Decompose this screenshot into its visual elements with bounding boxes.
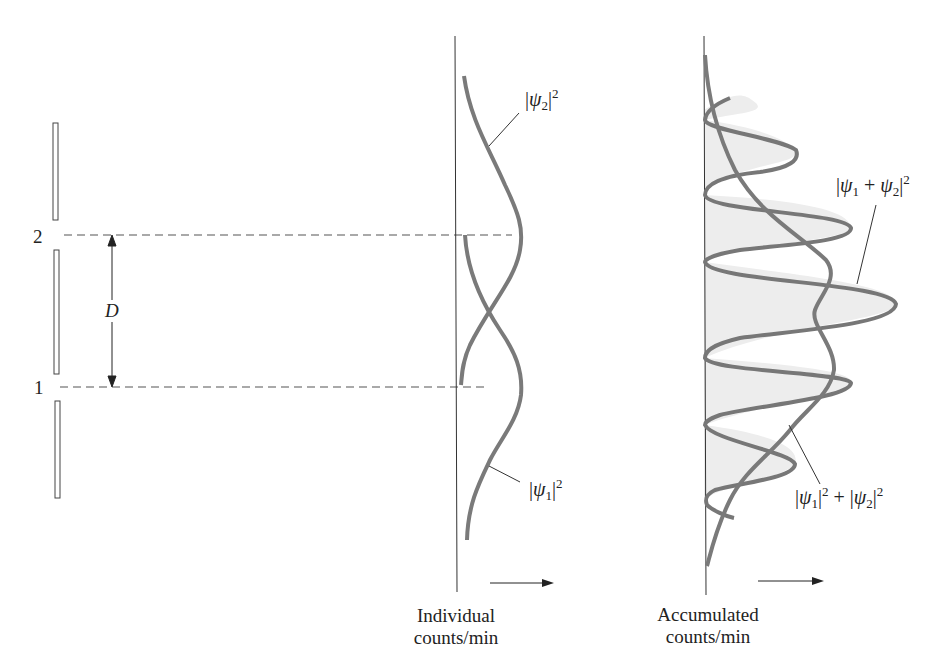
subscript: 2: [893, 184, 900, 199]
psi1-curve: [465, 235, 521, 540]
individual-axis: [455, 36, 457, 592]
individual-caption: Individual counts/min: [400, 605, 512, 649]
power: 2: [822, 484, 829, 499]
interference-leader-line: [857, 205, 876, 284]
psi-symbol: ψ: [529, 88, 541, 110]
psi2-leader-line: [489, 113, 519, 146]
caption-line-2: counts/min: [645, 626, 771, 648]
psi-symbol: ψ: [799, 486, 811, 508]
separation-label: D: [104, 300, 120, 322]
psi1-squared-label: |ψ1|2: [529, 476, 562, 504]
barrier-top-segment: [53, 123, 58, 220]
barrier-bottom-segment: [55, 401, 60, 498]
slit-barrier: [53, 123, 60, 498]
interference-label: |ψ1 + ψ2|2: [836, 172, 910, 200]
arrow-right-icon: [542, 579, 554, 587]
arrow-up-icon: [108, 235, 116, 246]
sum-label: |ψ1|2 + |ψ2|2: [795, 484, 883, 512]
subscript: 1: [852, 184, 859, 199]
subscript: 1: [811, 496, 818, 511]
barrier-middle-segment: [54, 250, 59, 374]
psi-symbol: ψ: [533, 478, 545, 500]
psi2-squared-label: |ψ2|2: [525, 86, 558, 114]
plus-sign: +: [833, 486, 844, 508]
plus-sign: +: [864, 174, 875, 196]
subscript: 1: [545, 488, 552, 503]
arrow-right-icon: [812, 577, 824, 585]
caption-line-2: counts/min: [400, 627, 512, 649]
power: 2: [903, 172, 910, 187]
power: 2: [556, 476, 563, 491]
psi-symbol: ψ: [880, 174, 892, 196]
slit-2-label: 2: [33, 226, 43, 248]
arrow-down-icon: [108, 376, 116, 387]
psi2-curve: [461, 76, 521, 385]
slit-1-label: 1: [34, 377, 44, 399]
diagram-canvas: [0, 0, 945, 670]
subscript: 2: [541, 98, 548, 113]
power: 2: [877, 484, 884, 499]
accumulated-x-arrow: [758, 577, 824, 585]
accumulated-caption: Accumulated counts/min: [645, 604, 771, 648]
subscript: 2: [866, 496, 873, 511]
psi-symbol: ψ: [840, 174, 852, 196]
caption-line-1: Accumulated: [645, 604, 771, 626]
psi1-leader-line: [489, 466, 520, 482]
individual-x-arrow: [490, 579, 554, 587]
caption-line-1: Individual: [400, 605, 512, 627]
psi-symbol: ψ: [854, 486, 866, 508]
power: 2: [552, 86, 559, 101]
two-slit-diagram: 2 1 D |ψ2|2 |ψ1|2 |ψ1 + ψ2|2 |ψ1|2 + |ψ2…: [0, 0, 945, 670]
